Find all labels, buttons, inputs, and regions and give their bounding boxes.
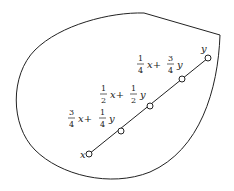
label-x: x bbox=[80, 149, 86, 160]
svg-text:4: 4 bbox=[100, 120, 105, 129]
svg-text:4: 4 bbox=[168, 66, 173, 75]
svg-text:x+: x+ bbox=[110, 89, 124, 100]
svg-text:1: 1 bbox=[138, 54, 143, 63]
svg-text:4: 4 bbox=[69, 120, 74, 129]
svg-text:y: y bbox=[139, 89, 146, 100]
label-midpoint: 1 2 x+ 1 2 y bbox=[100, 84, 146, 105]
point-midpoint bbox=[147, 103, 153, 109]
point-y bbox=[205, 55, 211, 61]
svg-text:x+: x+ bbox=[78, 113, 92, 124]
point-quarter-x bbox=[179, 76, 185, 82]
point-x bbox=[86, 151, 92, 157]
svg-text:y: y bbox=[108, 113, 115, 124]
svg-text:x+: x+ bbox=[147, 59, 161, 70]
svg-text:3: 3 bbox=[69, 108, 74, 117]
convex-combination-diagram: x y 3 4 x+ 1 4 y 1 2 x+ 1 2 y 1 4 x+ 3 4… bbox=[0, 0, 234, 191]
svg-text:1: 1 bbox=[131, 84, 136, 93]
svg-text:4: 4 bbox=[138, 66, 143, 75]
point-three-quarter-x bbox=[118, 128, 124, 134]
label-quarter-x: 1 4 x+ 3 4 y bbox=[137, 54, 183, 75]
svg-text:2: 2 bbox=[131, 96, 136, 105]
svg-text:3: 3 bbox=[168, 54, 173, 63]
svg-text:2: 2 bbox=[101, 96, 106, 105]
svg-text:1: 1 bbox=[100, 108, 105, 117]
label-y: y bbox=[200, 43, 207, 54]
svg-text:y: y bbox=[176, 59, 183, 70]
svg-text:1: 1 bbox=[101, 84, 106, 93]
label-three-quarter-x: 3 4 x+ 1 4 y bbox=[68, 108, 115, 129]
